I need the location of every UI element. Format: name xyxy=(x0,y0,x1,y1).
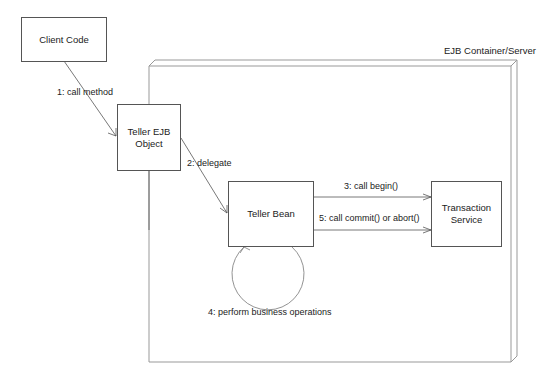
arrow-call-commit xyxy=(314,227,431,233)
message-4-label: 4: perform business operations xyxy=(208,307,332,317)
message-3-label: 3: call begin() xyxy=(344,181,398,191)
node-client-code-label: Client Code xyxy=(39,34,89,46)
message-2-label: 2: delegate xyxy=(187,158,232,168)
node-transaction-service-label: Transaction Service xyxy=(442,202,491,226)
node-teller-bean-label: Teller Bean xyxy=(247,208,295,220)
arrow-call-begin xyxy=(314,194,431,200)
arrow-delegate xyxy=(181,138,227,213)
node-teller-bean: Teller Bean xyxy=(228,181,314,247)
container-label: EJB Container/Server xyxy=(444,45,536,56)
node-transaction-service: Transaction Service xyxy=(431,181,502,247)
arrow-call-method xyxy=(64,61,116,136)
node-client-code: Client Code xyxy=(21,17,107,62)
node-teller-ejb-object-label: Teller EJB Object xyxy=(128,126,171,150)
node-teller-ejb-object: Teller EJB Object xyxy=(117,104,181,171)
message-1-label: 1: call method xyxy=(57,87,113,97)
self-loop-business-ops xyxy=(232,247,304,310)
message-5-label: 5: call commit() or abort() xyxy=(319,213,420,223)
